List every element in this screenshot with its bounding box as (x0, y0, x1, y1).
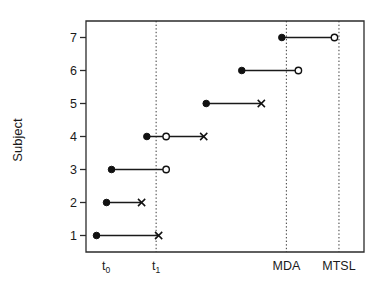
y-axis-label-group: 1234567 (70, 31, 77, 243)
subject-3-start-filled-circle-icon (108, 166, 115, 173)
subject-row-5 (203, 100, 265, 107)
y-tick-label-5: 5 (70, 97, 77, 111)
y-tick-label-4: 4 (70, 130, 77, 144)
subject-series-group (93, 34, 337, 239)
subject-row-7 (279, 34, 338, 41)
subject-5-start-filled-circle-icon (203, 100, 210, 107)
x-tick-label-t0: t0 (102, 259, 110, 275)
y-tick-label-1: 1 (70, 229, 77, 243)
subject-4-start-filled-circle-icon (144, 133, 151, 140)
subject-timeline-scatter-plot: 1234567 t0t1MDAMTSL Subject (0, 0, 387, 281)
subject-6-end-open-circle-icon (295, 67, 301, 73)
y-axis-title: Subject (10, 118, 25, 162)
plot-border (86, 21, 364, 252)
x-axis-label-group: t0t1MDAMTSL (102, 259, 356, 275)
subject-6-start-filled-circle-icon (238, 67, 245, 74)
subject-row-4 (144, 133, 208, 140)
subject-7-start-filled-circle-icon (279, 34, 286, 41)
subject-3-end-open-circle-icon (163, 166, 169, 172)
x-tick-label-mtsl: MTSL (322, 259, 355, 273)
subject-2-start-filled-circle-icon (103, 199, 110, 206)
subject-4-mid-open-circle-icon (163, 133, 169, 139)
subject-1-start-filled-circle-icon (93, 232, 100, 239)
subject-row-1 (93, 232, 162, 239)
y-tick-label-2: 2 (70, 196, 77, 210)
x-tick-label-mda: MDA (272, 259, 300, 273)
subject-7-end-open-circle-icon (331, 34, 337, 40)
y-tick-label-3: 3 (70, 163, 77, 177)
subject-row-6 (238, 67, 301, 74)
subject-row-3 (108, 166, 169, 173)
chart-figure: 1234567 t0t1MDAMTSL Subject (0, 0, 387, 281)
y-tick-label-6: 6 (70, 64, 77, 78)
plot-frame (86, 21, 364, 252)
y-tick-label-7: 7 (70, 31, 77, 45)
subject-row-2 (103, 199, 145, 206)
x-tick-label-t1: t1 (152, 259, 160, 275)
y-axis-tick-group (80, 38, 86, 236)
